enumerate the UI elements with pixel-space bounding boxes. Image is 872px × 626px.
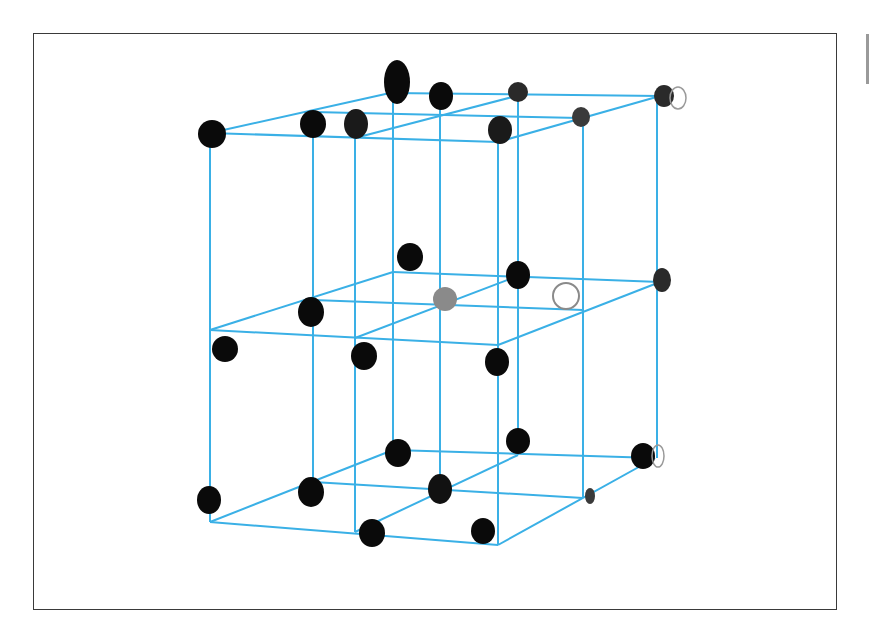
atom <box>359 519 385 547</box>
atom <box>298 477 324 507</box>
atom <box>572 107 590 127</box>
atom <box>344 109 368 139</box>
atom <box>198 120 226 148</box>
atom <box>197 486 221 514</box>
atom <box>397 243 423 271</box>
atom <box>508 82 528 102</box>
atom <box>506 428 530 454</box>
atom <box>506 261 530 289</box>
atom <box>653 268 671 292</box>
atom <box>212 336 238 362</box>
atom <box>471 518 495 544</box>
atom <box>300 110 326 138</box>
atom <box>351 342 377 370</box>
atom-faded <box>553 283 579 309</box>
atom <box>384 60 410 104</box>
atom <box>585 488 595 504</box>
atom <box>298 297 324 327</box>
atoms <box>197 60 686 547</box>
atom-faded <box>433 287 457 311</box>
atom <box>385 439 411 467</box>
atom <box>485 348 509 376</box>
atom <box>429 82 453 110</box>
atom <box>488 116 512 144</box>
lattice-diagram <box>0 0 872 626</box>
atom <box>428 474 452 504</box>
